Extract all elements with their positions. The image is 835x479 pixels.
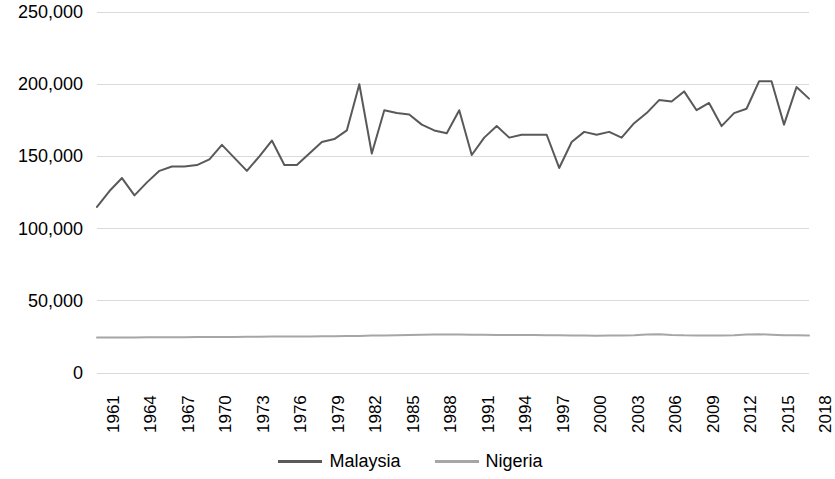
y-axis-tick-label: 100,000 [18,220,83,238]
legend-entry-nigeria[interactable]: Nigeria [435,452,543,470]
legend-line-icon [435,460,479,463]
legend-entry-malaysia[interactable]: Malaysia [278,452,400,470]
x-axis-tick-label: 1979 [330,395,347,433]
x-axis-tick-label: 1988 [442,395,459,433]
x-axis-tick-label: 1991 [480,395,497,433]
x-axis-tick-label: 2012 [742,395,759,433]
y-axis-tick-label: 250,000 [18,3,83,21]
x-axis-tick-label: 1964 [142,395,159,433]
x-axis-tick-label: 1994 [517,395,534,433]
y-axis-tick-label: 0 [73,364,83,382]
gridlines-group [97,12,809,373]
x-axis-tick-label: 1976 [292,395,309,433]
x-axis-tick-label: 1985 [405,395,422,433]
series-line-malaysia [97,81,809,207]
x-axis-tick-label: 2015 [780,395,797,433]
legend-line-icon [278,460,322,463]
x-axis-tick-label: 2006 [667,395,684,433]
x-axis-tick-label: 2000 [592,395,609,433]
x-axis-tick-label: 1970 [217,395,234,433]
x-axis-tick-label: 2003 [630,395,647,433]
x-axis-tick-label: 1973 [255,395,272,433]
x-axis-tick-label: 1967 [180,395,197,433]
legend-label: Nigeria [486,452,543,470]
series-lines-group [97,81,809,337]
x-axis-tick-label: 2018 [817,395,834,433]
x-axis-tick-label: 2009 [705,395,722,433]
x-axis-tick-label: 1997 [555,395,572,433]
chart-legend: MalaysiaNigeria [0,443,821,479]
y-axis-tick-label: 200,000 [18,75,83,93]
y-axis-tick-label: 50,000 [28,292,83,310]
x-axis-tick-label: 1982 [367,395,384,433]
y-axis-tick-label: 150,000 [18,147,83,165]
legend-label: Malaysia [329,452,400,470]
series-line-nigeria [97,334,809,337]
x-axis-tick-label: 1961 [105,395,122,433]
